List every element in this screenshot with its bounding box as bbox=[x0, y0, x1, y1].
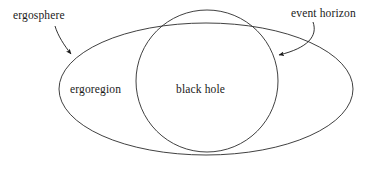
ergosphere-diagram: ergosphere event horizon ergoregion blac… bbox=[0, 0, 386, 170]
event-horizon-arrow bbox=[279, 22, 314, 55]
label-black-hole: black hole bbox=[176, 84, 225, 96]
event-horizon-circle bbox=[136, 10, 278, 152]
label-event-horizon: event horizon bbox=[291, 8, 356, 20]
label-ergosphere: ergosphere bbox=[13, 10, 65, 22]
label-ergoregion: ergoregion bbox=[70, 84, 121, 96]
ergosphere-arrow bbox=[55, 26, 71, 54]
